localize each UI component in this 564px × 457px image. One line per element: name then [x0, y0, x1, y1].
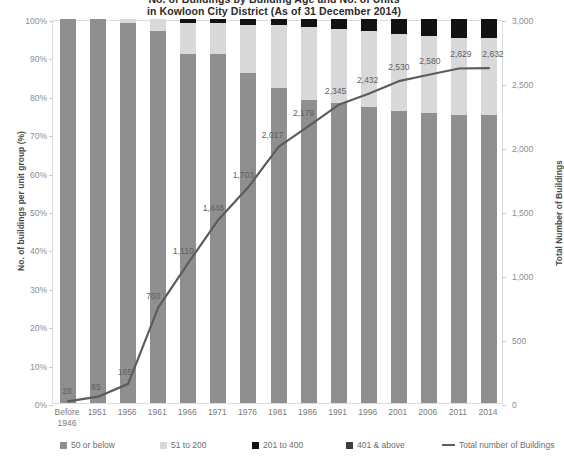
legend-label: 201 to 400	[263, 440, 303, 450]
legend-color-swatch	[160, 442, 167, 449]
line-point-label: 65	[91, 382, 100, 392]
line-point-label: 2,432	[357, 75, 378, 85]
x-axis-tick-label: 2006	[413, 407, 443, 418]
y-axis-left-tick: 30%	[1, 285, 47, 295]
y-axis-left-tick: 10%	[1, 362, 47, 372]
chart-title: No. of Buildings by Building Age and No.…	[0, 0, 548, 17]
x-axis-tick-label: 1981	[262, 407, 292, 418]
legend-label: Total number of Buildings	[459, 440, 554, 450]
line-point-label: 2,629	[450, 49, 471, 59]
plot-area: 28651657601,1101,4481,7032,0172,1792,345…	[52, 20, 503, 404]
y-axis-right-tickmark	[502, 405, 506, 406]
line-point-label: 2,179	[293, 108, 314, 118]
legend-color-swatch	[60, 442, 67, 449]
x-axis-tick-label: 1996	[353, 407, 383, 418]
line-point-label: 760	[146, 291, 160, 301]
line-point-label: 28	[62, 386, 71, 396]
total-buildings-line	[53, 21, 504, 405]
x-axis-tick-label: 1951	[82, 407, 112, 418]
y-axis-right-title: Total Number of Buildings	[554, 133, 564, 293]
chart-legend: 50 or below51 to 200201 to 400401 & abov…	[52, 440, 503, 454]
line-point-label: 1,110	[173, 246, 194, 256]
line-point-label: 1,703	[233, 170, 254, 180]
y-axis-right-tick: 1,000	[512, 272, 558, 282]
x-axis-tick-label: 1991	[323, 407, 353, 418]
y-axis-right-tick: 3,000	[512, 16, 558, 26]
x-axis-tick-label: 2001	[383, 407, 413, 418]
legend-label: 401 & above	[357, 440, 405, 450]
x-axis-tick-label: 1986	[293, 407, 323, 418]
x-axis-tick-label: 2011	[443, 407, 473, 418]
x-axis-tick-label: 1971	[202, 407, 232, 418]
y-axis-right-tick: 1,500	[512, 208, 558, 218]
y-axis-left-tickmark	[49, 405, 53, 406]
y-axis-right-tick: 500	[512, 336, 558, 346]
x-axis-ticks: Before1946195119561961196619711976198119…	[52, 407, 503, 437]
legend-item[interactable]: Total number of Buildings	[442, 440, 554, 450]
x-axis-tick-label: 1956	[112, 407, 142, 418]
line-point-label: 2,580	[419, 56, 440, 66]
legend-item[interactable]: 401 & above	[346, 440, 405, 450]
x-axis-tick-label: 2014	[473, 407, 503, 418]
y-axis-left-tick: 0%	[1, 400, 47, 410]
y-axis-right-tick: 0	[512, 400, 558, 410]
line-point-label: 1,448	[203, 203, 224, 213]
legend-color-swatch	[346, 442, 353, 449]
chart-title-line-2: in Kowloon City District (As of 31 Decem…	[0, 5, 548, 17]
y-axis-left-tick: 100%	[1, 16, 47, 26]
total-buildings-polyline	[68, 68, 489, 401]
y-axis-left-tick: 80%	[1, 93, 47, 103]
legend-label: 51 to 200	[171, 440, 206, 450]
x-axis-tick-label: 1961	[142, 407, 172, 418]
legend-line-marker	[442, 444, 455, 446]
line-point-label: 2,017	[262, 130, 283, 140]
legend-item[interactable]: 201 to 400	[252, 440, 303, 450]
legend-color-swatch	[252, 442, 259, 449]
x-axis-tick-label: 1966	[172, 407, 202, 418]
y-axis-right-tick: 2,500	[512, 80, 558, 90]
y-axis-left-title: No. of buildings per unit group (%)	[16, 121, 26, 281]
legend-item[interactable]: 50 or below	[60, 440, 115, 450]
line-point-label: 2,345	[325, 86, 346, 96]
legend-label: 50 or below	[71, 440, 115, 450]
legend-item[interactable]: 51 to 200	[160, 440, 206, 450]
y-axis-left-tick: 90%	[1, 54, 47, 64]
x-axis-tick-label: Before1946	[52, 407, 82, 429]
line-point-label: 2,632	[482, 49, 503, 59]
line-point-label: 2,530	[388, 62, 409, 72]
line-point-label: 165	[118, 367, 132, 377]
y-axis-right-tick: 2,000	[512, 144, 558, 154]
x-axis-tick-label: 1976	[232, 407, 262, 418]
y-axis-left-tick: 20%	[1, 323, 47, 333]
